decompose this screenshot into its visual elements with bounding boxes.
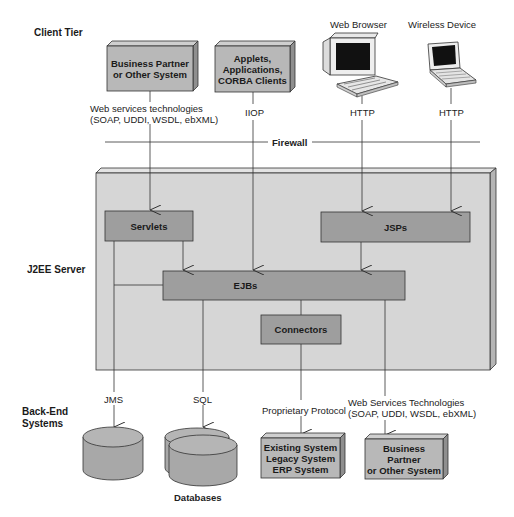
applets-line2: Applications, (223, 64, 283, 75)
desktop-computer-icon (323, 33, 398, 97)
web-browser-label: Web Browser (330, 19, 387, 30)
connectors-label: Connectors (261, 315, 341, 344)
jms-label: JMS (104, 394, 123, 405)
http-wireless-label: HTTP (439, 107, 464, 118)
business-partner-backend-text: Business Partner or Other System (365, 439, 443, 479)
ejbs-label: EJBs (163, 271, 328, 300)
sql-label: SQL (193, 394, 212, 405)
j2ee-server-label: J2EE Server (27, 264, 85, 276)
laptop-wireless-icon (428, 42, 476, 87)
backend-systems-label-line2: Systems (22, 418, 63, 430)
client-tier-label: Client Tier (34, 27, 83, 39)
ws-backend-label-line2: (SOAP, UDDI, WSDL, ebXML) (348, 408, 476, 419)
firewall-label: Firewall (272, 137, 307, 148)
existing-line1: Existing System (264, 442, 337, 453)
jms-queue-cylinder (83, 427, 143, 480)
business-partner-line2: or Other System (113, 69, 187, 80)
iiop-label: IIOP (245, 107, 264, 118)
databases-label: Databases (174, 492, 222, 503)
applets-line1: Applets, (234, 53, 271, 64)
business-partner-client-text: Business Partner or Other System (107, 46, 193, 91)
web-services-label-line1: Web services technologies (90, 103, 203, 114)
http-browser-label: HTTP (350, 107, 375, 118)
jsps-label: JSPs (321, 212, 470, 242)
business-partner-line1: Business Partner (111, 58, 189, 69)
partner-line2: Partner (387, 454, 420, 465)
existing-line3: ERP System (273, 464, 329, 475)
proprietary-protocol-label: Proprietary Protocol (262, 405, 346, 416)
existing-system-text: Existing System Legacy System ERP System (261, 438, 340, 478)
wireless-device-label: Wireless Device (408, 19, 476, 30)
applets-client-text: Applets, Applications, CORBA Clients (215, 46, 290, 92)
servlets-label: Servlets (105, 211, 193, 241)
partner-line1: Business (383, 443, 425, 454)
backend-systems-label-line1: Back-End (22, 406, 68, 418)
applets-line3: CORBA Clients (218, 75, 287, 86)
databases-cylinders (165, 428, 237, 486)
partner-line3: or Other System (367, 465, 441, 476)
ws-backend-label-line1: Web Services Technologies (348, 397, 464, 408)
existing-line2: Legacy System (266, 453, 335, 464)
web-services-label-line2: (SOAP, UDDI, WSDL, ebXML) (90, 114, 218, 125)
